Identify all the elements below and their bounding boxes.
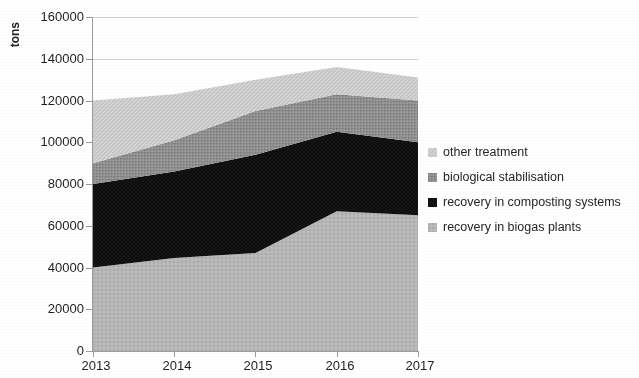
- y-tick-label-20000: 20000: [6, 301, 84, 316]
- legend-swatch-other-treatment: [428, 148, 437, 157]
- legend-swatch-recovery-biogas: [428, 223, 437, 232]
- y-tick-label-60000: 60000: [6, 218, 84, 233]
- legend-label-recovery-composting: recovery in composting systems: [443, 196, 621, 209]
- legend-label-recovery-biogas: recovery in biogas plants: [443, 221, 581, 234]
- legend-label-other-treatment: other treatment: [443, 146, 528, 159]
- stacked-area-chart: tons 0 20000 40000 60000 80000 100000 12…: [0, 0, 639, 378]
- x-tick-mark: [93, 351, 94, 357]
- plot-area: [93, 17, 418, 351]
- y-tick-label-140000: 140000: [6, 51, 84, 66]
- y-tick-label-40000: 40000: [6, 260, 84, 275]
- legend-item-recovery-biogas[interactable]: recovery in biogas plants: [428, 215, 636, 240]
- x-tick-label-2013: 2013: [82, 358, 111, 373]
- y-tick-label-120000: 120000: [6, 93, 84, 108]
- x-tick-label-2016: 2016: [326, 358, 355, 373]
- y-axis-labels: 0 20000 40000 60000 80000 100000 120000 …: [0, 0, 84, 378]
- x-tick-mark: [418, 351, 419, 357]
- legend-item-recovery-composting[interactable]: recovery in composting systems: [428, 190, 636, 215]
- y-tick-label-0: 0: [6, 343, 84, 358]
- x-tick-mark: [174, 351, 175, 357]
- legend-item-biological-stabilisation[interactable]: biological stabilisation: [428, 165, 636, 190]
- x-tick-label-2017: 2017: [406, 358, 435, 373]
- x-tick-mark: [255, 351, 256, 357]
- y-tick-label-160000: 160000: [6, 9, 84, 24]
- legend-swatch-recovery-composting: [428, 198, 437, 207]
- y-tick-label-100000: 100000: [6, 134, 84, 149]
- x-tick-mark: [337, 351, 338, 357]
- legend-item-other-treatment[interactable]: other treatment: [428, 140, 636, 165]
- series-layer: [93, 17, 418, 351]
- legend-label-biological-stabilisation: biological stabilisation: [443, 171, 564, 184]
- x-tick-label-2015: 2015: [244, 358, 273, 373]
- legend-swatch-biological-stabilisation: [428, 173, 437, 182]
- x-tick-label-2014: 2014: [163, 358, 192, 373]
- y-tick-label-80000: 80000: [6, 176, 84, 191]
- chart-legend: other treatment biological stabilisation…: [428, 140, 636, 240]
